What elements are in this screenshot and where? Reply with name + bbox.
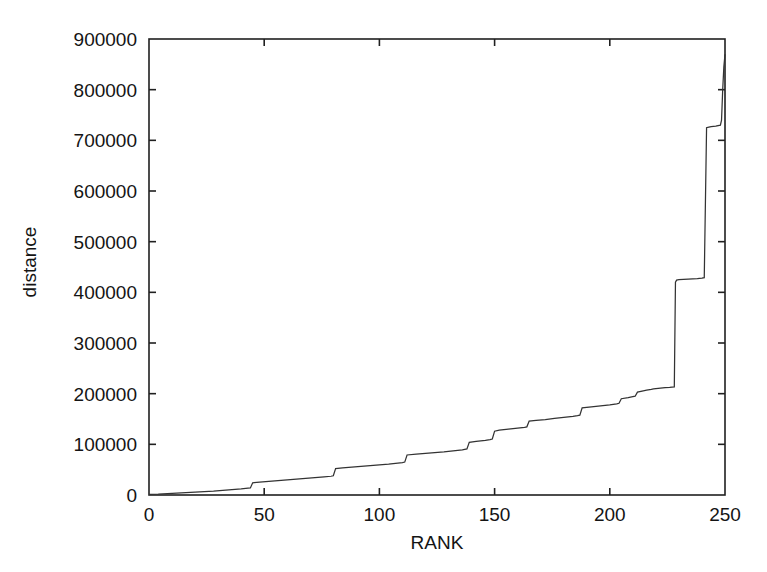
y-axis-title: distance [19, 227, 40, 298]
y-tick-label: 0 [126, 485, 137, 506]
x-axis-title: RANK [411, 532, 464, 553]
x-tick-label: 250 [709, 504, 741, 525]
x-tick-label: 50 [254, 504, 275, 525]
y-tick-label: 600000 [74, 181, 137, 202]
y-tick-label: 500000 [74, 232, 137, 253]
y-tick-label: 300000 [74, 333, 137, 354]
x-tick-label: 200 [594, 504, 626, 525]
distance-vs-rank-line-chart: 0100000200000300000400000500000600000700… [0, 0, 767, 572]
y-tick-label: 200000 [74, 384, 137, 405]
x-tick-label: 150 [479, 504, 511, 525]
x-tick-label: 0 [144, 504, 155, 525]
y-tick-label: 400000 [74, 282, 137, 303]
y-tick-label: 700000 [74, 130, 137, 151]
y-tick-label: 100000 [74, 434, 137, 455]
x-tick-label: 100 [364, 504, 396, 525]
chart-figure: 0100000200000300000400000500000600000700… [0, 0, 767, 572]
y-tick-label: 800000 [74, 80, 137, 101]
y-tick-label: 900000 [74, 29, 137, 50]
